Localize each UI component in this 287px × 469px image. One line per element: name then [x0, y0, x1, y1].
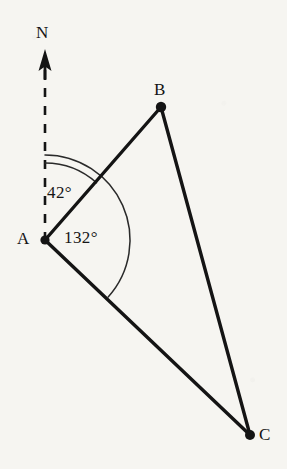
vertex-marker-b: [156, 102, 166, 112]
diagram-canvas: [0, 0, 287, 469]
north-label: N: [36, 24, 48, 41]
angle-label-bearing-42: 42°: [47, 184, 72, 201]
vertex-label-c: C: [259, 426, 270, 443]
angle-arc-42: [45, 163, 97, 183]
angle-label-interior-132: 132°: [64, 229, 98, 246]
vertex-label-b: B: [154, 81, 165, 98]
bearing-diagram: N A B C 42° 132°: [0, 0, 287, 469]
vertex-label-a: A: [17, 230, 29, 247]
segment-ab: [45, 107, 161, 240]
vertex-marker-c: [245, 430, 255, 440]
segment-ac: [45, 240, 250, 435]
segment-bc: [161, 107, 250, 435]
vertex-marker-a: [40, 235, 49, 244]
